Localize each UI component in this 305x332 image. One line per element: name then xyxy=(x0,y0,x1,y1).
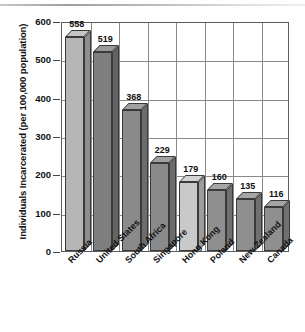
bar-value-label: 160 xyxy=(202,172,236,182)
bar-value-label: 229 xyxy=(145,145,179,155)
bar xyxy=(65,37,84,251)
bar xyxy=(93,52,112,251)
y-axis-tick-mark xyxy=(53,175,60,176)
y-axis-tick-label: 400 xyxy=(11,93,51,104)
bar-value-label: 368 xyxy=(117,92,151,102)
y-axis-tick-mark xyxy=(53,60,60,61)
bar-chart-figure: Individuals Incarcerated (per 100,000 po… xyxy=(0,0,305,332)
bar-value-label: 558 xyxy=(60,19,94,29)
y-axis-tick-mark xyxy=(53,137,60,138)
plot-area xyxy=(61,22,289,252)
bar-front-face xyxy=(93,52,112,251)
bar-value-label: 116 xyxy=(259,189,293,199)
y-axis-tick-mark xyxy=(53,214,60,215)
scan-artifact-line xyxy=(0,4,305,6)
y-axis-tick-label: 300 xyxy=(11,131,51,142)
y-axis-tick-label: 0 xyxy=(11,246,51,257)
bar-side-face xyxy=(141,103,148,251)
y-axis-tick-mark xyxy=(53,99,60,100)
y-axis-tick-label: 100 xyxy=(11,208,51,219)
gridline-vertical xyxy=(119,23,120,251)
gridline-vertical xyxy=(176,23,177,251)
bar-side-face xyxy=(84,30,91,251)
gridline-vertical xyxy=(233,23,234,251)
y-axis-tick-mark xyxy=(53,252,60,253)
bar-side-face xyxy=(112,45,119,251)
y-axis-tick-label: 600 xyxy=(11,16,51,27)
bar-front-face xyxy=(65,37,84,251)
y-axis-tick-label: 200 xyxy=(11,169,51,180)
bar-value-label: 519 xyxy=(88,34,122,44)
y-axis-tick-label: 500 xyxy=(11,54,51,65)
